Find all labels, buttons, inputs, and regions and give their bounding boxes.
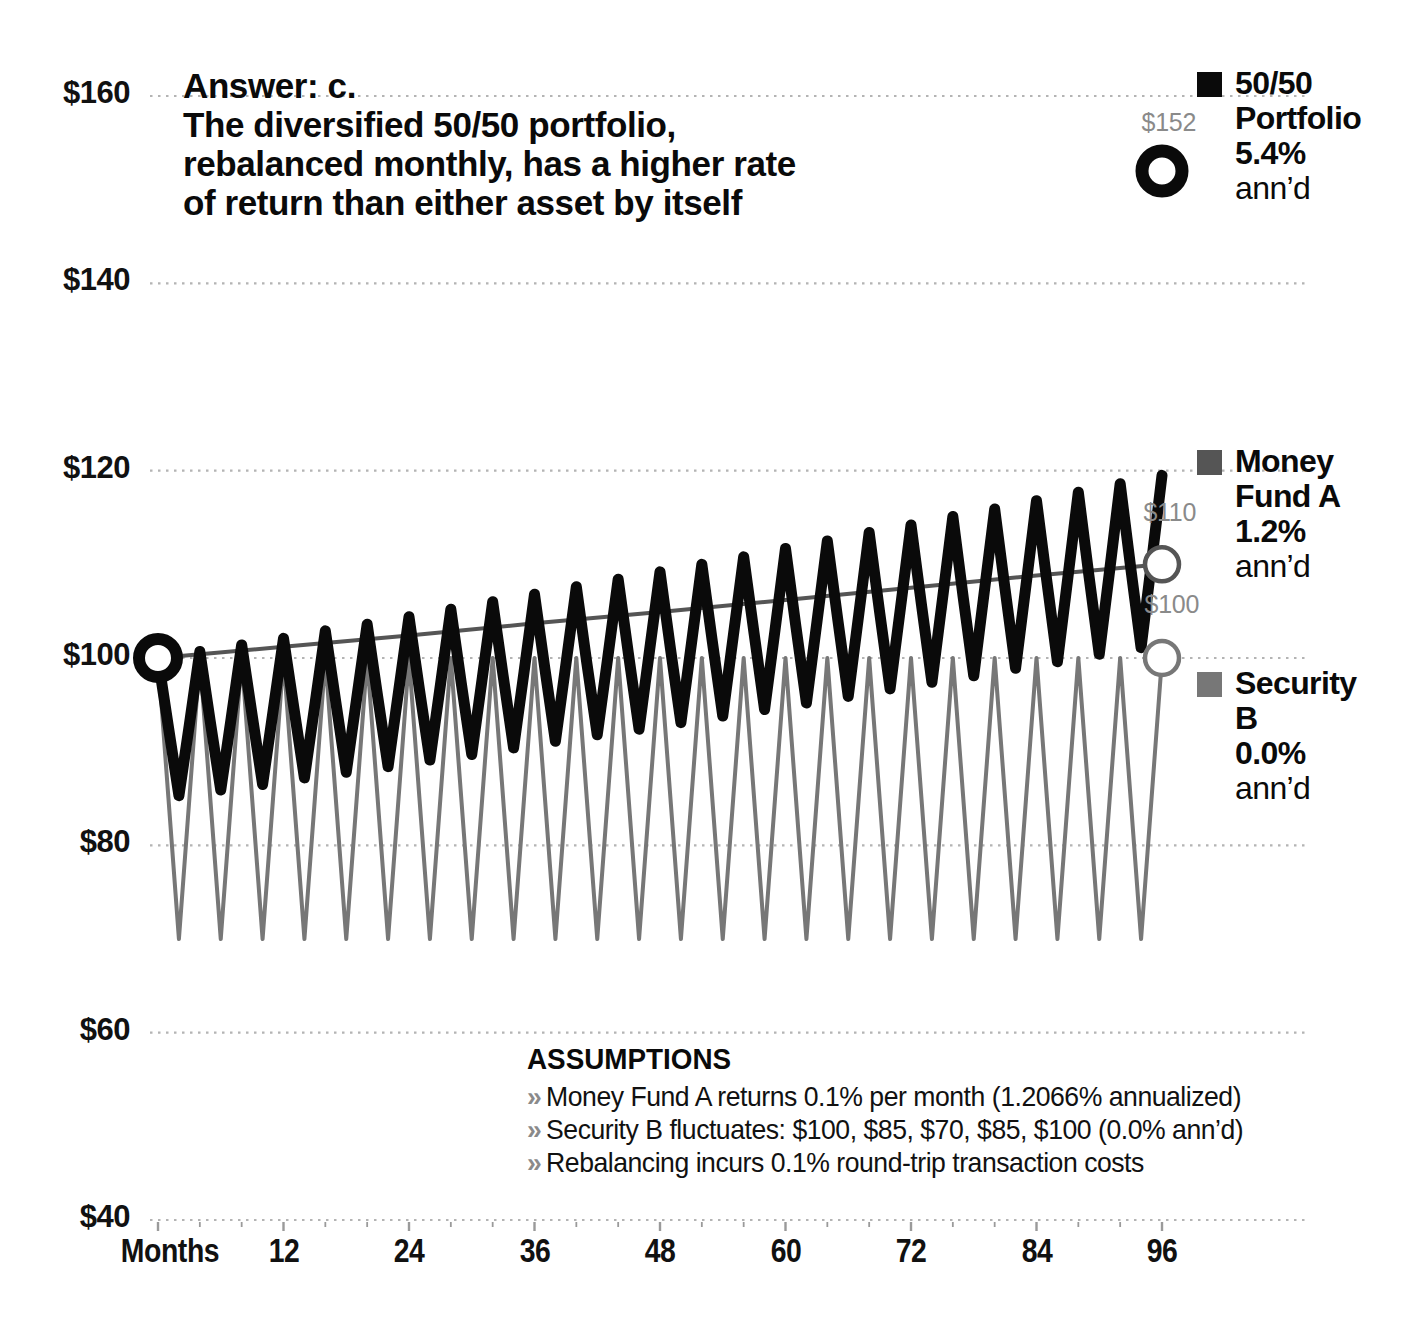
y-axis-label-120: $120 (0, 450, 130, 486)
x-axis-label-60: 60 (734, 1232, 837, 1270)
legend-name-line2: B (1235, 701, 1347, 736)
assumption-item-3: »Rebalancing incurs 0.1% round-trip tran… (527, 1146, 1287, 1179)
legend-name-line1: Security (1235, 666, 1347, 701)
x-axis-label-36: 36 (483, 1232, 586, 1270)
assumptions-list: »Money Fund A returns 0.1% per month (1.… (527, 1080, 1327, 1179)
assumption-text: Security B fluctuates: $100, $85, $70, $… (546, 1114, 1243, 1145)
series-line-security-b (158, 658, 1162, 939)
legend-rate: 0.0% (1235, 736, 1347, 771)
page-title-line-3: rebalanced monthly, has a higher rate (183, 144, 963, 183)
page-title: Answer: c.The diversified 50/50 portfoli… (183, 66, 963, 222)
x-axis-label-84: 84 (985, 1232, 1088, 1270)
assumption-item-2: »Security B fluctuates: $100, $85, $70, … (527, 1113, 1287, 1146)
legend-name-line1: Money (1235, 444, 1347, 479)
assumption-text: Money Fund A returns 0.1% per month (1.2… (546, 1081, 1241, 1112)
legend-swatch-security-b (1197, 672, 1222, 697)
legend-item-50-50-portfolio[interactable]: 50/50Portfolio5.4%ann’d (1197, 66, 1347, 206)
x-axis-label-12: 12 (232, 1232, 335, 1270)
x-axis-title: Months (101, 1232, 239, 1270)
y-axis-label-80: $80 (0, 824, 130, 860)
x-axis-label-72: 72 (859, 1232, 962, 1270)
endpoint-value-money-fund-a: $110 (1086, 498, 1196, 527)
legend-name-line2: Fund A (1235, 479, 1347, 514)
x-axis-ticks (158, 1222, 1162, 1231)
legend-swatch-50-50-portfolio (1197, 72, 1222, 97)
legend-rate-suffix: ann’d (1235, 171, 1347, 206)
y-axis-label-60: $60 (0, 1012, 130, 1048)
series-layer (158, 475, 1162, 939)
y-axis-label-100: $100 (0, 637, 130, 673)
page-title-line-2: The diversified 50/50 portfolio, (183, 105, 963, 144)
bullet-icon: » (527, 1081, 541, 1112)
legend-rate: 1.2% (1235, 514, 1347, 549)
y-axis-label-140: $140 (0, 262, 130, 298)
x-axis-label-24: 24 (357, 1232, 460, 1270)
legend-label-security-b: SecurityB0.0%ann’d (1235, 666, 1347, 806)
x-axis-label-48: 48 (608, 1232, 711, 1270)
page-title-line-1: Answer: c. (183, 66, 963, 105)
bullet-icon: » (527, 1114, 541, 1145)
legend-rate-suffix: ann’d (1235, 771, 1347, 806)
assumption-text: Rebalancing incurs 0.1% round-trip trans… (546, 1147, 1144, 1178)
legend-name-line2: Portfolio (1235, 101, 1347, 136)
assumption-item-1: »Money Fund A returns 0.1% per month (1.… (527, 1080, 1287, 1113)
page-title-line-4: of return than either asset by itself (183, 183, 963, 222)
bullet-icon: » (527, 1147, 541, 1178)
legend-swatch-money-fund-a (1197, 450, 1222, 475)
chart-figure: $40$60$80$100$120$140$160 Months12243648… (0, 0, 1414, 1324)
endpoint-value-50-50-portfolio: $152 (1086, 108, 1196, 137)
legend-item-security-b[interactable]: SecurityB0.0%ann’d (1197, 666, 1347, 806)
legend-name-line1: 50/50 (1235, 66, 1347, 101)
start-marker-50-50-portfolio (139, 639, 177, 677)
x-axis-label-96: 96 (1110, 1232, 1213, 1270)
legend-item-money-fund-a[interactable]: MoneyFund A1.2%ann’d (1197, 444, 1347, 584)
endpoint-marker-security-b (1145, 641, 1179, 675)
y-axis-label-40: $40 (0, 1199, 130, 1235)
legend-rate-suffix: ann’d (1235, 549, 1347, 584)
y-axis-label-160: $160 (0, 75, 130, 111)
assumptions-block: ASSUMPTIONS »Money Fund A returns 0.1% p… (527, 1043, 1327, 1179)
legend-label-50-50-portfolio: 50/50Portfolio5.4%ann’d (1235, 66, 1347, 206)
endpoint-marker-50-50-portfolio (1142, 151, 1182, 191)
legend-label-money-fund-a: MoneyFund A1.2%ann’d (1235, 444, 1347, 584)
legend-rate: 5.4% (1235, 136, 1347, 171)
endpoint-value-security-b: $100 (1089, 590, 1199, 619)
assumptions-title: ASSUMPTIONS (527, 1043, 1295, 1076)
series-line-50-50-portfolio (158, 475, 1162, 795)
endpoint-marker-money-fund-a (1145, 547, 1179, 581)
